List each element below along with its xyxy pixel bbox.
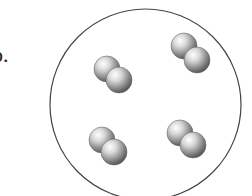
atom-sphere	[101, 139, 127, 165]
atom-sphere	[180, 132, 206, 158]
atom-sphere	[184, 47, 210, 73]
container-circle	[50, 9, 241, 196]
molecule-bottom-right	[167, 120, 206, 158]
atom-sphere	[106, 67, 132, 93]
molecule-top-right	[171, 33, 210, 73]
molecule-top-left	[94, 56, 132, 93]
molecule-bottom-left	[89, 127, 127, 165]
particle-diagram	[0, 0, 252, 196]
